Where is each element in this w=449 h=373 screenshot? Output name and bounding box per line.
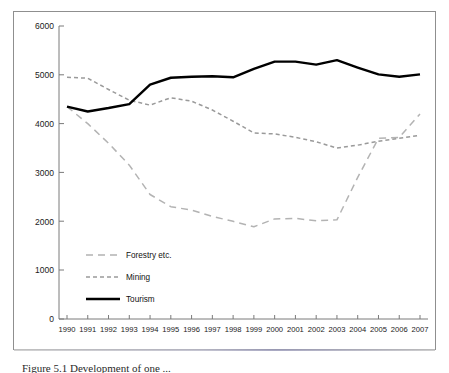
page-edge-shadow [14, 349, 435, 351]
x-tick-label: 1994 [142, 325, 159, 334]
x-axis-ticks [67, 315, 420, 319]
y-tick-label: 1000 [35, 265, 54, 275]
chart-frame: 6000 5000 4000 3000 2000 1000 0 19901991… [13, 11, 436, 350]
y-tick-label: 4000 [35, 119, 54, 129]
legend-label-mining: Mining [126, 273, 151, 282]
x-tick-label: 1992 [100, 325, 117, 334]
x-tick-label: 1991 [79, 325, 96, 334]
x-tick-label: 2005 [370, 325, 387, 334]
y-tick-label: 5000 [35, 70, 54, 80]
legend-label-tourism: Tourism [126, 295, 155, 304]
chart-series-layer [67, 60, 420, 227]
x-tick-label: 1997 [204, 325, 221, 334]
x-tick-label: 2000 [266, 325, 283, 334]
line-chart: 6000 5000 4000 3000 2000 1000 0 19901991… [14, 12, 435, 349]
x-tick-label: 1996 [183, 325, 200, 334]
x-tick-label: 2002 [308, 325, 325, 334]
x-tick-label: 1999 [245, 325, 262, 334]
x-tick-label: 2004 [349, 325, 366, 334]
series-line-mining [67, 77, 420, 148]
x-tick-label: 2007 [412, 325, 429, 334]
chart-axes [59, 26, 428, 319]
chart-legend: Forestry etc.MiningTourism [86, 251, 172, 304]
y-tick-label: 3000 [35, 168, 54, 178]
y-axis-ticks: 6000 5000 4000 3000 2000 1000 0 [35, 21, 64, 324]
series-line-tourism [67, 60, 420, 111]
x-tick-label: 2003 [328, 325, 345, 334]
x-tick-label: 2006 [391, 325, 408, 334]
y-tick-label: 6000 [35, 21, 54, 31]
figure-root: 6000 5000 4000 3000 2000 1000 0 19901991… [0, 0, 449, 373]
series-line-forestry-etc [67, 107, 420, 227]
figure-caption: Figure 5.1 Development of one ... [22, 362, 432, 373]
x-tick-label: 1995 [162, 325, 179, 334]
x-tick-label: 1990 [59, 325, 76, 334]
y-tick-label: 0 [49, 314, 54, 324]
x-tick-label: 2001 [287, 325, 304, 334]
x-tick-label: 1993 [121, 325, 138, 334]
x-tick-label: 1998 [225, 325, 242, 334]
x-axis-tick-labels: 1990199119921993199419951996199719981999… [59, 325, 429, 334]
y-tick-label: 2000 [35, 217, 54, 227]
legend-label-forestry-etc: Forestry etc. [126, 251, 172, 260]
